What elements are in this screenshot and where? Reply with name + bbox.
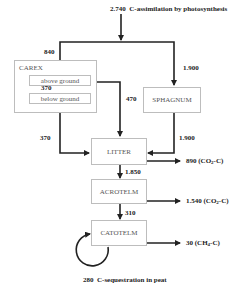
flow-sphagnum-to-litter: 1.900 [179, 134, 195, 142]
flow-above-to-below: 370 [41, 84, 52, 92]
flow-acrotelm-to-catotelm: 310 [125, 209, 136, 217]
flow-litter-to-acrotelm: 1.850 [125, 168, 141, 176]
acrotelm-box: ACROTELM [91, 179, 147, 204]
flow-carex-to-litter: 370 [40, 134, 51, 142]
carex-box: CAREX [14, 60, 97, 113]
assimilation-label: 2.740 C-assimilation by photosynthesis [110, 5, 227, 13]
acrotelm-co2-output: 1.540 (CO2-C) [186, 197, 229, 207]
flow-to-sphagnum: 1.900 [183, 64, 199, 72]
above-ground-box: above ground [29, 75, 91, 86]
catotelm-box: CATOTELM [91, 220, 147, 246]
below-ground-box: below ground [29, 93, 91, 104]
sequestration-label: 280 C-sequestration in peat [83, 276, 167, 284]
litter-co2-output: 890 (CO2-C) [186, 157, 223, 167]
catotelm-ch4-output: 30 (CH4-C) [186, 239, 220, 249]
flow-to-carex: 840 [44, 48, 55, 56]
flow-above-to-litter: 470 [126, 95, 137, 103]
sphagnum-box: SPHAGNUM [143, 87, 201, 113]
litter-box: LITTER [91, 138, 147, 165]
